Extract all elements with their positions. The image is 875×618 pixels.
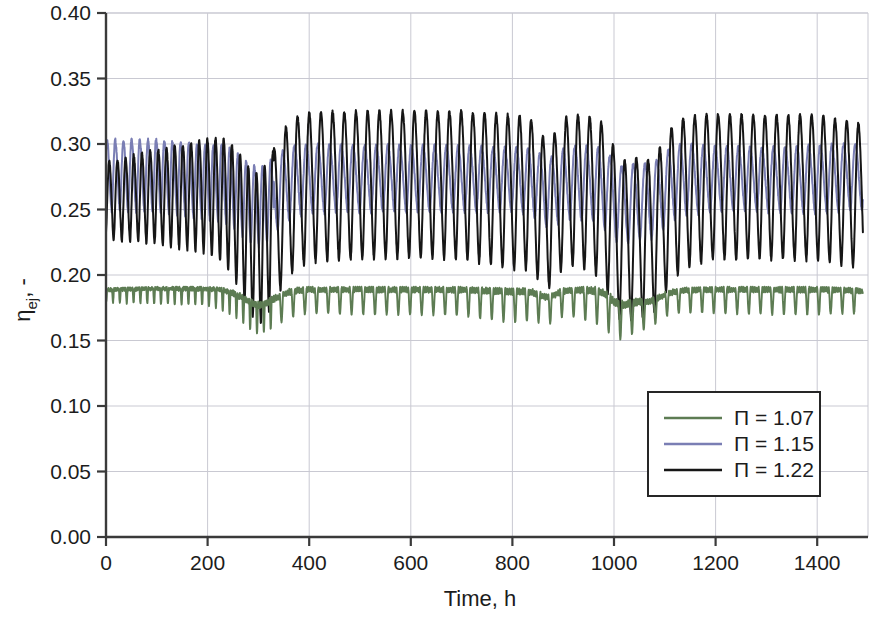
y-axis-title: ηej, - (10, 278, 40, 322)
chart-figure: 0.000.050.100.150.200.250.300.350.400200… (0, 0, 875, 618)
x-axis-tick-label: 1400 (794, 551, 841, 574)
y-axis-tick-label: 0.25 (50, 198, 91, 221)
legend-label-2: Π = 1.22 (734, 458, 814, 481)
y-axis-tick-label: 0.05 (50, 460, 91, 483)
y-axis-title-symbol: η (10, 310, 35, 322)
x-axis-tick-label: 200 (190, 551, 225, 574)
y-axis-tick-label: 0.00 (50, 525, 91, 548)
x-axis-tick-label: 400 (292, 551, 327, 574)
svg-text:ηej, -: ηej, - (10, 278, 40, 322)
y-axis-tick-label: 0.30 (50, 132, 91, 155)
y-axis-title-suffix: , - (10, 278, 35, 298)
legend-label-0: Π = 1.07 (734, 406, 814, 429)
y-axis-tick-label: 0.35 (50, 67, 91, 90)
legend: Π = 1.07Π = 1.15Π = 1.22 (648, 392, 820, 496)
x-axis-tick-label: 1000 (591, 551, 638, 574)
y-axis-tick-label: 0.40 (50, 1, 91, 24)
x-axis-tick-label: 1200 (692, 551, 739, 574)
legend-label-1: Π = 1.15 (734, 432, 814, 455)
x-axis-tick-label: 0 (100, 551, 112, 574)
series-line-pi-1-07 (106, 287, 863, 340)
ejector-efficiency-line-chart: 0.000.050.100.150.200.250.300.350.400200… (0, 0, 875, 618)
x-axis-tick-label: 800 (495, 551, 530, 574)
y-axis-title-subscript: ej (23, 298, 40, 310)
y-axis-tick-label: 0.20 (50, 263, 91, 286)
x-axis-title: Time, h (444, 586, 517, 611)
y-axis-tick-label: 0.15 (50, 329, 91, 352)
y-axis-tick-label: 0.10 (50, 394, 91, 417)
x-axis-tick-label: 600 (393, 551, 428, 574)
